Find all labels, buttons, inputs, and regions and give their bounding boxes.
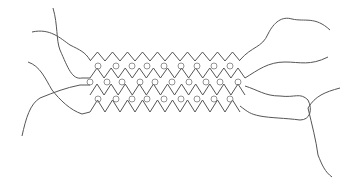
tail-left-1 [53,8,90,78]
crosslinks-3-circle [129,96,135,102]
crosslinks-1-circle [129,63,135,69]
crosslinks-3-circle [194,96,200,102]
chain-3 [90,84,245,95]
tail-right-3 [240,86,310,120]
crosslinks-2-circle [137,79,143,85]
chain-1 [90,52,240,61]
crosslinks-2-circle [87,79,93,85]
crosslinks-1-circle [95,63,101,69]
crosslinks-1-circle [161,63,167,69]
tail-left-4 [22,85,90,136]
crosslinks-2-circle [203,79,209,85]
tail-left-2 [32,31,90,60]
zigzag-chains [90,52,245,112]
crosslinks-2-circle [186,79,192,85]
crosslinks-2-circle [104,79,110,85]
diagram-canvas [0,0,353,187]
crosslinks-1-circle [227,63,233,69]
crosslinks-3-circle [161,96,167,102]
crosslinks-3-circle [178,96,184,102]
polymer-chain-diagram [0,0,353,187]
crosslinks-1-circle [211,63,217,69]
crosslinks-1-circle [144,63,150,69]
crosslinks-2-circle [217,79,223,85]
crosslinks-2-circle [119,79,125,85]
tail-right-1 [240,18,330,60]
crosslinks-2-circle [152,79,158,85]
crosslinks-3-circle [144,96,150,102]
tail-right-4 [308,88,340,177]
tail-left-3 [28,62,90,114]
crosslinks-3-circle [211,96,217,102]
polymer-tails [22,8,340,177]
chain-2 [90,68,245,78]
crosslinks-1-circle [113,63,119,69]
crosslinks-2-circle [169,79,175,85]
crosslinks-3-circle [227,96,233,102]
tail-right-2 [245,57,328,78]
crosslinks-1-circle [194,63,200,69]
crosslinks-3-circle [113,96,119,102]
